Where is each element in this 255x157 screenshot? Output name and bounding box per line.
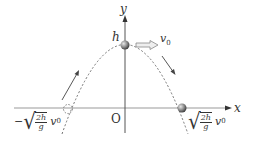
ascending-motion-arrow-icon	[62, 70, 79, 100]
x-axis-label: x	[234, 102, 241, 114]
projectile-diagram	[0, 0, 255, 157]
origin-label: O	[111, 113, 121, 125]
left-intercept-label: − √ 2hg v0	[14, 111, 61, 131]
initial-velocity-label: v0	[160, 33, 171, 47]
launch-point-marker	[64, 105, 73, 114]
y-axis	[123, 15, 128, 133]
ball-at-landing	[178, 104, 187, 113]
height-label: h	[112, 31, 120, 43]
right-intercept-label: √ 2hg v0	[188, 111, 226, 131]
y-axis-label: y	[120, 3, 127, 15]
ball-at-apex	[121, 41, 130, 50]
descending-motion-arrow-icon	[162, 56, 176, 75]
velocity-arrow-icon	[136, 41, 158, 50]
